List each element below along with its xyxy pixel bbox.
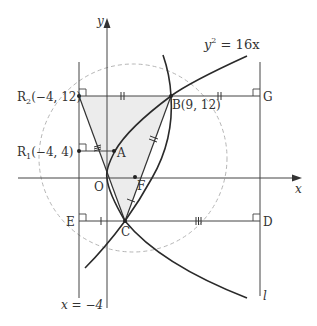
y-axis-arrow-icon — [104, 18, 111, 28]
x-axis-arrow-icon — [292, 175, 302, 182]
label-E: E — [66, 215, 75, 229]
right-angle-G — [253, 89, 260, 96]
label-B: B(9, 12) — [172, 98, 221, 112]
x-axis-label: x — [295, 182, 302, 196]
equation-label: y2 = 16x — [203, 36, 260, 52]
directrix-label: x = −4 — [61, 298, 103, 312]
label-R1: R1(−4, 4) — [17, 145, 73, 161]
label-F: F — [137, 179, 145, 193]
label-D: D — [263, 215, 273, 229]
label-A: A — [116, 146, 126, 160]
label-R2: R2(−4, 12) — [17, 90, 81, 106]
y-axis-label: y — [96, 14, 104, 28]
parabola-diagram: y x y2 = 16x R2(−4, 12) R1(−4, 4) B(9, 1… — [0, 0, 317, 326]
right-angle-E — [79, 214, 86, 221]
line-l-label: l — [263, 289, 267, 303]
label-O: O — [94, 180, 104, 194]
diagram-canvas: y x y2 = 16x R2(−4, 12) R1(−4, 4) B(9, 1… — [0, 0, 317, 326]
label-G: G — [263, 90, 273, 104]
right-angle-D — [253, 214, 260, 221]
label-C: C — [121, 225, 130, 239]
